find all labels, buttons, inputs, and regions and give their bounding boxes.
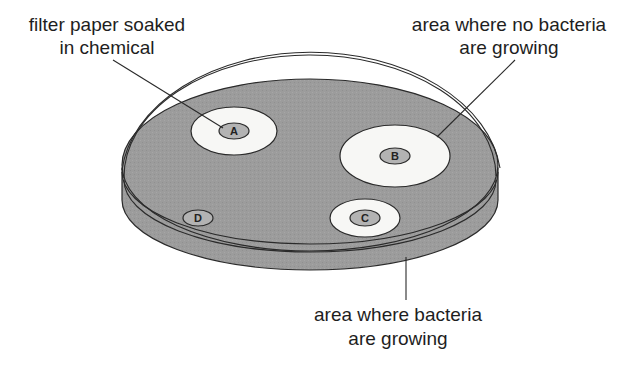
label-no-bacteria-line-1: area where no bacteria — [412, 14, 607, 35]
dish-base — [122, 79, 498, 270]
label-no-bacteria: area where no bacteria are growing — [412, 14, 607, 58]
label-no-bacteria-line-2: are growing — [459, 37, 558, 58]
disc-group-c: C — [330, 199, 400, 237]
label-filter-paper-line-2: in chemical — [59, 37, 154, 58]
disc-group-d: D — [183, 210, 213, 226]
label-filter-paper: filter paper soaked in chemical — [29, 14, 185, 58]
label-bacteria-line-1: area where bacteria — [314, 304, 482, 325]
label-filter-paper-line-1: filter paper soaked — [29, 14, 185, 35]
disc-group-b: B — [340, 125, 450, 187]
disc-group-a: A — [191, 107, 277, 155]
disc-c-label: C — [361, 212, 369, 224]
label-bacteria-line-2: are growing — [348, 328, 447, 349]
label-bacteria: area where bacteria are growing — [314, 304, 482, 349]
disc-a-label: A — [230, 125, 238, 137]
disc-b-label: B — [391, 150, 399, 162]
petri-dish-diagram: A B C D filter paper soaked in chemical … — [0, 0, 629, 368]
disc-d-label: D — [194, 212, 202, 224]
